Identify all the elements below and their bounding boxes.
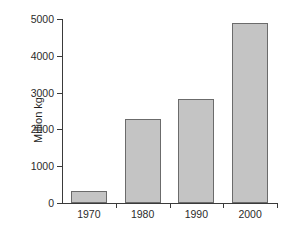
y-axis-tick-label: 4000: [31, 51, 54, 62]
y-axis-tick: [57, 93, 62, 94]
x-axis-tick: [116, 203, 117, 208]
x-axis-tick-label: 1990: [185, 209, 208, 220]
bar: [125, 119, 161, 203]
x-axis-tick-label: 1980: [131, 209, 154, 220]
y-axis-tick: [57, 203, 62, 204]
bar: [71, 191, 107, 203]
y-axis-tick-label: 0: [48, 198, 54, 209]
bar: [178, 99, 214, 204]
bar: [232, 23, 268, 203]
x-axis-tick-label: 2000: [238, 209, 261, 220]
y-axis-tick-label: 3000: [31, 87, 54, 98]
y-axis-tick: [57, 166, 62, 167]
y-axis-tick: [57, 129, 62, 130]
x-axis-tick: [277, 203, 278, 208]
x-axis-tick: [223, 203, 224, 208]
y-axis-tick-label: 5000: [31, 14, 54, 25]
y-axis-title: Million kg: [33, 97, 44, 143]
y-axis-tick-label: 2000: [31, 124, 54, 135]
x-axis-tick: [170, 203, 171, 208]
bar-chart-figure: Million kg 010002000300040005000 1970198…: [0, 0, 297, 239]
y-axis-tick: [57, 56, 62, 57]
x-axis-tick-label: 1970: [77, 209, 100, 220]
y-axis-tick: [57, 19, 62, 20]
y-axis-tick-label: 1000: [31, 161, 54, 172]
y-axis-line: [62, 19, 63, 203]
plot-area: 010002000300040005000 1970198019902000: [62, 19, 277, 203]
